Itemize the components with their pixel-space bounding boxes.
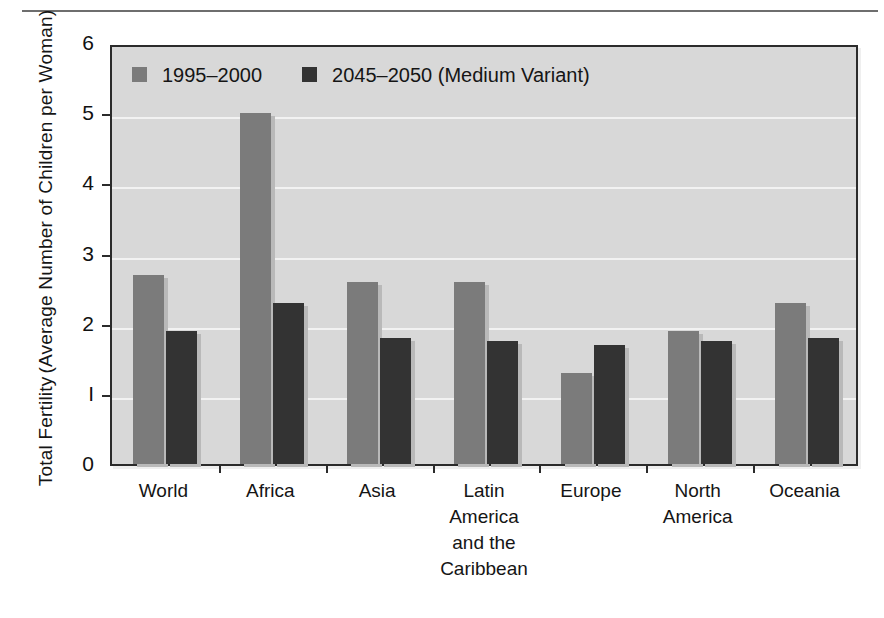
bar (701, 341, 732, 464)
y-axis-tick-label: 2 (54, 312, 94, 336)
gridline (112, 258, 856, 260)
y-axis-tick (102, 395, 110, 397)
bar (808, 338, 839, 464)
x-axis-label-line: America (644, 504, 751, 530)
x-axis-tick (326, 464, 328, 473)
x-axis-label-line: Asia (324, 478, 431, 504)
x-axis-label: Oceania (751, 478, 858, 504)
legend-item[interactable]: 2045–2050 (Medium Variant) (302, 64, 590, 87)
x-axis-label-line: Oceania (751, 478, 858, 504)
gridline (112, 187, 856, 189)
x-axis-tick (433, 464, 435, 473)
x-axis-label-line: Caribbean (431, 556, 538, 582)
y-axis-tick-label: 5 (54, 101, 94, 125)
bar (487, 341, 518, 464)
x-axis-label-line: World (110, 478, 217, 504)
y-axis-tick (102, 325, 110, 327)
x-axis-tick (646, 464, 648, 473)
figure-container: Total Fertility (Average Number of Child… (0, 0, 884, 618)
y-axis-tick-label: I (54, 382, 94, 406)
bar (668, 331, 699, 464)
x-axis-label-line: Europe (537, 478, 644, 504)
x-axis-label: Europe (537, 478, 644, 504)
x-axis-label-line: North (644, 478, 751, 504)
bar (594, 345, 625, 464)
y-axis-tick-label: 4 (54, 171, 94, 195)
bar (166, 331, 197, 464)
y-axis-tick-label: 3 (54, 242, 94, 266)
y-axis-tick-label: 0 (54, 452, 94, 476)
x-axis-label: LatinAmericaand theCaribbean (431, 478, 538, 582)
x-axis-tick (219, 464, 221, 473)
x-axis-label: NorthAmerica (644, 478, 751, 530)
legend-swatch-icon (132, 67, 149, 84)
x-axis-label-line: Latin (431, 478, 538, 504)
x-axis-tick (539, 464, 541, 473)
bar (240, 113, 271, 464)
x-axis-label: World (110, 478, 217, 504)
gridline (112, 117, 856, 119)
y-axis-tick (102, 114, 110, 116)
y-axis-tick (102, 184, 110, 186)
bar (454, 282, 485, 464)
bar (273, 303, 304, 464)
chart-legend: 1995–20002045–2050 (Medium Variant) (132, 64, 590, 87)
x-axis-tick (753, 464, 755, 473)
plot-area (110, 45, 858, 466)
bar (561, 373, 592, 464)
legend-swatch-icon (302, 67, 319, 84)
bar (775, 303, 806, 464)
bar (347, 282, 378, 464)
legend-label: 1995–2000 (162, 64, 262, 87)
x-axis-label-line: America (431, 504, 538, 530)
header-divider-rule (22, 10, 878, 12)
x-axis-label-line: and the (431, 530, 538, 556)
bar (380, 338, 411, 464)
bar (133, 275, 164, 464)
y-axis-tick-label: 6 (54, 31, 94, 55)
legend-label: 2045–2050 (Medium Variant) (332, 64, 590, 87)
x-axis-label-line: Africa (217, 478, 324, 504)
x-axis-label: Asia (324, 478, 431, 504)
y-axis-tick (102, 255, 110, 257)
legend-item[interactable]: 1995–2000 (132, 64, 262, 87)
x-axis-label: Africa (217, 478, 324, 504)
